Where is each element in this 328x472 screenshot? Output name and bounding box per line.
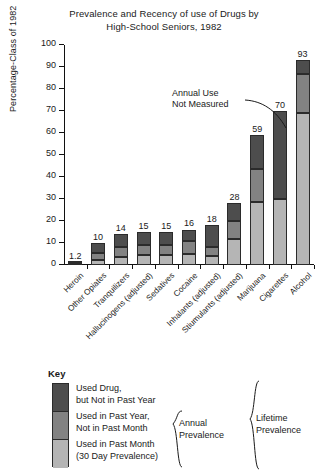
x-tick-4 <box>178 265 179 269</box>
bar-segment-past-year-not-month <box>182 241 196 254</box>
y-tick-label-60: 60 <box>30 126 56 136</box>
y-tick-50: 50 <box>59 154 64 155</box>
bar-segment-past-month <box>137 255 151 265</box>
annual-prevalence-line-1: Annual <box>179 418 224 430</box>
bar-cigarettes[interactable]: 70 <box>273 111 287 265</box>
bar-value-label: 14 <box>116 223 126 233</box>
bar-segment-past-month <box>182 254 196 265</box>
bar-segment-not-past-year <box>227 203 241 221</box>
bar-segment-past-month <box>159 255 173 265</box>
x-tick-8 <box>269 265 270 269</box>
bar-segment-not-past-year <box>159 232 173 245</box>
y-tick-100: 100 <box>59 44 64 45</box>
bar-value-label: 15 <box>161 221 171 231</box>
bar-stiumulants-adjusted[interactable]: 28 <box>227 203 241 265</box>
bar-segment-not-past-year <box>250 135 264 169</box>
annotation-line-1: Annual Use <box>172 88 229 99</box>
bar-segment-not-past-year <box>91 243 105 253</box>
x-tick-5 <box>200 265 201 269</box>
plot-area: 0102030405060708090100 1.210141515161828… <box>64 45 314 265</box>
bar-segment-not-past-year <box>68 261 82 263</box>
bar-hallucinogens-adjusted[interactable]: 15 <box>137 232 151 265</box>
bar-segment-past-year-not-month <box>250 169 264 202</box>
bar-inhalants-adjusted[interactable]: 18 <box>205 225 219 265</box>
y-tick-label-90: 90 <box>30 60 56 70</box>
y-tick-40: 40 <box>59 176 64 177</box>
bar-sedatives[interactable]: 15 <box>159 232 173 265</box>
y-tick-70: 70 <box>59 110 64 111</box>
bar-tranquilizers[interactable]: 14 <box>114 234 128 265</box>
x-tick-6 <box>223 265 224 269</box>
bar-value-label: 10 <box>93 232 103 242</box>
bar-segment-past-month <box>205 256 219 265</box>
bar-segment-not-past-year <box>273 111 287 199</box>
bar-marijuana[interactable]: 59 <box>250 135 264 265</box>
bar-value-label: 18 <box>207 214 217 224</box>
bar-segment-past-year-not-month <box>296 74 310 114</box>
bar-segment-past-month <box>114 257 128 265</box>
bar-heroin[interactable]: 1.2 <box>68 262 82 265</box>
bar-segment-past-year-not-month <box>114 247 128 257</box>
y-tick-label-50: 50 <box>30 148 56 158</box>
y-tick-30: 30 <box>59 198 64 199</box>
x-tick-7 <box>246 265 247 269</box>
x-tick-2 <box>132 265 133 269</box>
bar-other-opiates[interactable]: 10 <box>91 243 105 265</box>
x-tick-10 <box>314 265 315 269</box>
bar-segment-past-month <box>91 260 105 266</box>
bar-segment-past-year-not-month <box>159 245 173 255</box>
lifetime-prevalence-line-1: Lifetime <box>256 413 301 425</box>
x-label-alcohol: Alcohol <box>288 271 313 296</box>
bar-alcohol[interactable]: 93 <box>296 60 310 265</box>
x-tick-3 <box>155 265 156 269</box>
bar-segment-not-past-year <box>296 60 310 73</box>
bar-segment-not-past-year <box>114 234 128 247</box>
annotation-annual-use-not-measured: Annual Use Not Measured <box>172 88 229 110</box>
x-tick-9 <box>291 265 292 269</box>
y-tick-label-100: 100 <box>30 38 56 48</box>
y-tick-label-0: 0 <box>30 258 56 268</box>
bar-value-label: 15 <box>139 221 149 231</box>
bar-segment-past-year-not-month <box>137 245 151 255</box>
bar-value-label: 70 <box>275 100 285 110</box>
bar-segment-past-month <box>227 239 241 265</box>
bar-segment-past-year-not-month <box>227 221 241 239</box>
bar-segment-not-past-year <box>205 225 219 247</box>
y-tick-20: 20 <box>59 220 64 221</box>
bar-value-label: 16 <box>184 218 194 228</box>
y-tick-label-10: 10 <box>30 236 56 246</box>
bar-cocaine[interactable]: 16 <box>182 230 196 265</box>
bar-value-label: 28 <box>229 192 239 202</box>
y-tick-label-20: 20 <box>30 214 56 224</box>
y-tick-10: 10 <box>59 242 64 243</box>
bar-value-label: 93 <box>298 49 308 59</box>
y-tick-label-40: 40 <box>30 170 56 180</box>
y-tick-60: 60 <box>59 132 64 133</box>
annual-prevalence-line-2: Prevalence <box>179 430 224 442</box>
bar-segment-past-year-not-month <box>205 247 219 256</box>
bar-segment-not-past-year <box>137 232 151 245</box>
lifetime-prevalence-line-2: Prevalence <box>256 425 301 437</box>
bar-value-label: 59 <box>252 124 262 134</box>
bar-segment-past-month <box>273 199 287 265</box>
y-tick-label-70: 70 <box>30 104 56 114</box>
y-tick-80: 80 <box>59 88 64 89</box>
bar-segment-past-year-not-month <box>91 253 105 260</box>
y-tick-label-30: 30 <box>30 192 56 202</box>
bar-segment-past-month <box>296 113 310 265</box>
x-tick-1 <box>109 265 110 269</box>
y-tick-90: 90 <box>59 66 64 67</box>
bar-value-label: 1.2 <box>69 251 82 261</box>
y-axis-line <box>64 45 65 265</box>
chart-title-line-2: High-School Seniors, 1982 <box>0 21 328 34</box>
chart-title-line-1: Prevalence and Recency of use of Drugs b… <box>0 8 328 21</box>
y-axis-label: Percentage-Class of 1982 <box>8 0 18 112</box>
chart-container: Prevalence and Recency of use of Drugs b… <box>0 0 328 472</box>
bar-segment-not-past-year <box>182 230 196 241</box>
annotation-line-2: Not Measured <box>172 99 229 110</box>
legend-annual-prevalence-label: Annual Prevalence <box>179 418 224 441</box>
bar-segment-past-month <box>250 202 264 265</box>
chart-title: Prevalence and Recency of use of Drugs b… <box>0 8 328 33</box>
legend-lifetime-prevalence-label: Lifetime Prevalence <box>256 413 301 436</box>
y-tick-label-80: 80 <box>30 82 56 92</box>
